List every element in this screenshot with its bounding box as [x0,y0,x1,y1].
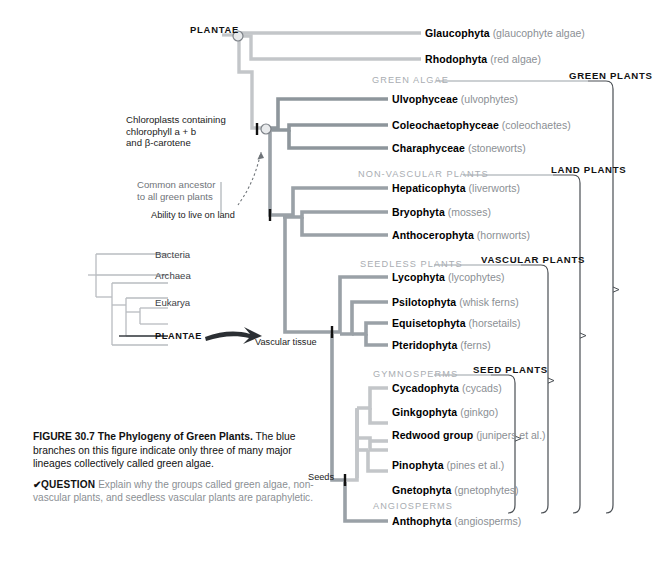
taxon-label: Charaphyceae (stoneworts) [392,142,526,154]
annotation-chloroplasts-line3: and β-carotene [126,137,248,149]
node-green-plant-ancestor [261,124,271,134]
caption-figure-number: FIGURE 30.7 [33,431,95,442]
bracket-green-plants [588,81,613,513]
caption-question-label: QUESTION [41,479,95,490]
bracket-land-plants [553,175,580,513]
taxon-label: Glaucophyta (glaucophyte algae) [425,27,585,39]
taxon-label: Equisetophyta (horsetails) [392,317,521,329]
figure-phylogeny-green-plants: Glaucophyta (glaucophyte algae) Rhodophy… [0,0,670,563]
taxon-label: Hepaticophyta (liverworts) [392,182,520,194]
annotation-ancestor-line2: to all green plants [137,191,223,203]
taxon-label: Ulvophyceae (ulvophytes) [392,93,518,105]
annotation-chloroplasts-line2: chlorophyll a + b [126,126,248,138]
annotation-ancestor-line1: Common ancestor [137,179,223,191]
caption-figure-title: The Phylogeny of Green Plants. [98,431,253,442]
inset-label-plantae: PLANTAE [155,331,202,341]
taxon-label: Lycophyta (lycophytes) [392,271,505,283]
annotation-common-ancestor: Common ancestor to all green plants [137,179,223,202]
annotation-chloroplasts: Chloroplasts containing chlorophyll a + … [126,114,248,149]
inset-label-eukarya: Eukarya [155,297,190,308]
checkmark-icon: ✔ [33,479,41,490]
root-label-plantae: PLANTAE [190,24,239,35]
taxon-label: Anthocerophyta (hornworts) [392,229,530,241]
branch-gymnosperms [345,388,388,480]
taxon-label: Psilotophyta (whisk ferns) [392,296,519,308]
inset-label-archaea: Archaea [155,270,191,281]
annotation-vascular-tissue: Vascular tissue [255,337,317,347]
bracket-label-seed-plants: SEED PLANTS [473,364,548,375]
taxon-label: Bryophyta (mosses) [392,206,491,218]
branch-non-vascular [283,188,388,235]
caption-question: ✔QUESTION Explain why the groups called … [33,478,315,505]
bracket-vascular-plants [521,265,548,513]
group-label-non-vascular: NON-VASCULAR PLANTS [358,169,489,179]
figure-caption: FIGURE 30.7 The Phylogeny of Green Plant… [33,430,315,505]
ancestor-pointer [238,152,264,205]
branch-rhodophyta [239,36,421,59]
taxon-label: Pinophyta (pines et al.) [392,459,504,471]
branch-glaucophyta [238,33,421,35]
bracket-label-land-plants: LAND PLANTS [551,164,626,175]
branch-green-algae [268,99,388,148]
annotation-ability-to-live-on-land: Ability to live on land [151,210,235,220]
taxon-label: Rhodophyta (red algae) [425,53,541,65]
annotation-chloroplasts-line1: Chloroplasts containing [126,114,248,126]
taxon-label: Gnetophyta (gnetophytes) [392,484,518,496]
group-label-angiosperms: ANGIOSPERMS [373,501,453,511]
group-label-seedless: SEEDLESS PLANTS [360,259,463,269]
taxon-label: Anthophyta (angiosperms) [392,515,521,527]
inset-label-bacteria: Bacteria [155,249,190,260]
branch-seedless [330,277,388,345]
branch-backbone-land [270,130,283,215]
branch-backbone-seeds [332,334,345,480]
inset-arrow-icon [205,327,262,344]
bracket-label-vascular-plants: VASCULAR PLANTS [481,254,585,265]
taxon-label: Cycadophyta (cycads) [392,382,502,394]
bracket-label-green-plants: GREEN PLANTS [569,70,653,81]
group-label-gymnosperms: GYMNOSPERMS [373,369,458,379]
group-label-green-algae: GREEN ALGAE [372,75,449,85]
taxon-label: Redwood group (junipers et al.) [392,429,546,441]
taxon-label: Ginkgophyta (ginkgo) [392,406,498,418]
taxon-label: Pteridophyta (ferns) [392,339,491,351]
taxon-label: Coleochaetophyceae (coleochaetes) [392,119,571,131]
caption-main: FIGURE 30.7 The Phylogeny of Green Plant… [33,430,315,471]
